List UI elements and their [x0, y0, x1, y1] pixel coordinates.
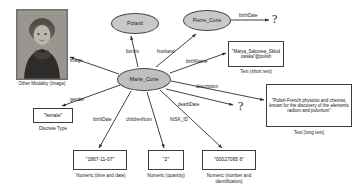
literal-value-birth-name: "Marya_Salomea_Skłodowska"@polish [231, 49, 281, 60]
unknown-value-pierre-birth-date: ? [272, 13, 277, 25]
literal-value-description: "Polish-French physicist and chemist, kn… [269, 98, 349, 114]
literal-value-gender: "female" [44, 113, 63, 119]
edge-label-gender: gender [70, 98, 84, 103]
node-pierre-curie[interactable]: Pierre_Curie [183, 10, 231, 31]
node-poland-label: Poland [127, 21, 143, 26]
portrait-illustration [17, 10, 67, 79]
edge-label-deathDate: deathDate [178, 103, 199, 108]
caption-gender-type: Discrete Type [18, 126, 88, 132]
node-poland[interactable]: Poland [111, 13, 159, 34]
literal-box-gender: "female" [33, 108, 73, 123]
edge-label-NISK_ID: NISK_ID [170, 118, 188, 123]
caption-nisk-id-type: Numeric (number and identification) [194, 173, 264, 184]
edge-label-birthDate: birthDate [93, 118, 112, 123]
image-modality-caption: Other Modality (Image) [10, 81, 74, 87]
literal-box-nisk-id: "00027095 6" [202, 150, 256, 170]
literal-box-children-num: "2" [148, 150, 184, 170]
caption-children-num-type: Numeric (quantity) [131, 173, 201, 179]
edge-label-image: image [70, 59, 83, 64]
edge-line-deathDate [166, 89, 233, 105]
node-marie-curie-label: Marie_Curie [130, 77, 159, 82]
caption-birth-name-type: Text (short text) [226, 69, 286, 75]
literal-value-children-num: "2" [163, 157, 169, 163]
node-marie-curie[interactable]: Marie_Curie [117, 68, 171, 91]
edge-line-gender [62, 85, 120, 106]
edge-label-birthName: birthName [186, 60, 207, 65]
literal-box-description: "Polish-French physicist and chemist, kn… [266, 84, 352, 127]
literal-box-birth-date: "1867-11-07" [73, 150, 127, 170]
literal-value-birth-date: "1867-11-07" [86, 157, 115, 163]
caption-description-type: Text (long text) [268, 130, 350, 136]
literal-box-birth-name: "Marya_Salomea_Skłodowska"@polish [228, 41, 284, 67]
caption-birth-date-type: Numeric (time and date) [66, 173, 136, 179]
diagram-canvas: Other Modality (Image) Poland Pierre_Cur… [0, 0, 358, 194]
edge-label-husband: husband [157, 50, 175, 55]
unknown-value-death-date: ? [238, 100, 243, 112]
node-pierre-curie-label: Pierre_Curie [193, 18, 222, 23]
literal-value-nisk-id: "00027095 6" [214, 157, 244, 163]
edge-label-pierre-birthDate: birthDate [239, 14, 258, 19]
edge-label-bornIn: bornIn [126, 50, 139, 55]
marie-curie-portrait-image [16, 9, 68, 80]
edge-label-description: description [196, 85, 218, 90]
edge-label-childrenNum: childrenNum [126, 118, 152, 123]
